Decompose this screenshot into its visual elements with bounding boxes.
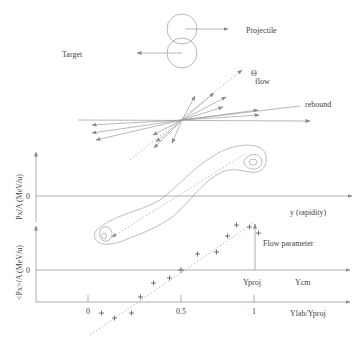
lower-y-label: <Px>/A (MeV/u) bbox=[15, 245, 24, 300]
x-tick-0-5: 0.5 bbox=[176, 307, 186, 316]
yproj-label: Yproj bbox=[243, 278, 261, 287]
beam-axis bbox=[78, 120, 310, 121]
x-tick-1: 1 bbox=[252, 307, 256, 316]
theta-subscript: flow bbox=[255, 77, 270, 86]
rebound-label: rebound bbox=[305, 100, 331, 109]
emission-pattern: Θ flow rebound bbox=[78, 69, 331, 160]
lower-x-label: Ylab/Yproj bbox=[290, 309, 326, 318]
data-points bbox=[99, 223, 261, 321]
flow-diagram: Projectile Target Θ flow rebound 0 Px/A … bbox=[0, 0, 363, 347]
upper-inner-contour bbox=[244, 155, 262, 170]
upper-core-contour bbox=[249, 159, 257, 165]
projectile-label: Projectile bbox=[246, 26, 277, 35]
lower-zero-label: 0 bbox=[26, 266, 30, 275]
upper-plot: 0 Px/A (MeV/u) y (rapidity) bbox=[15, 145, 352, 244]
outer-contour bbox=[95, 145, 267, 244]
flow-parameter-label: Flow parameter bbox=[263, 239, 314, 248]
ycm-label: Ycm bbox=[295, 278, 311, 287]
upper-flow-dashed bbox=[112, 154, 245, 237]
collision-sketch: Projectile Target bbox=[62, 14, 277, 68]
upper-zero-label: 0 bbox=[26, 192, 30, 201]
lower-plot: 0 <Px>/A (MeV/u) Flow parameter Yproj Yc… bbox=[15, 222, 350, 335]
upper-y-label: Px/A (MeV/u) bbox=[15, 174, 24, 220]
lower-core-contour bbox=[102, 233, 107, 239]
upper-x-label: y (rapidity) bbox=[290, 208, 327, 217]
x-tick-0: 0 bbox=[86, 307, 90, 316]
target-label: Target bbox=[62, 50, 83, 59]
